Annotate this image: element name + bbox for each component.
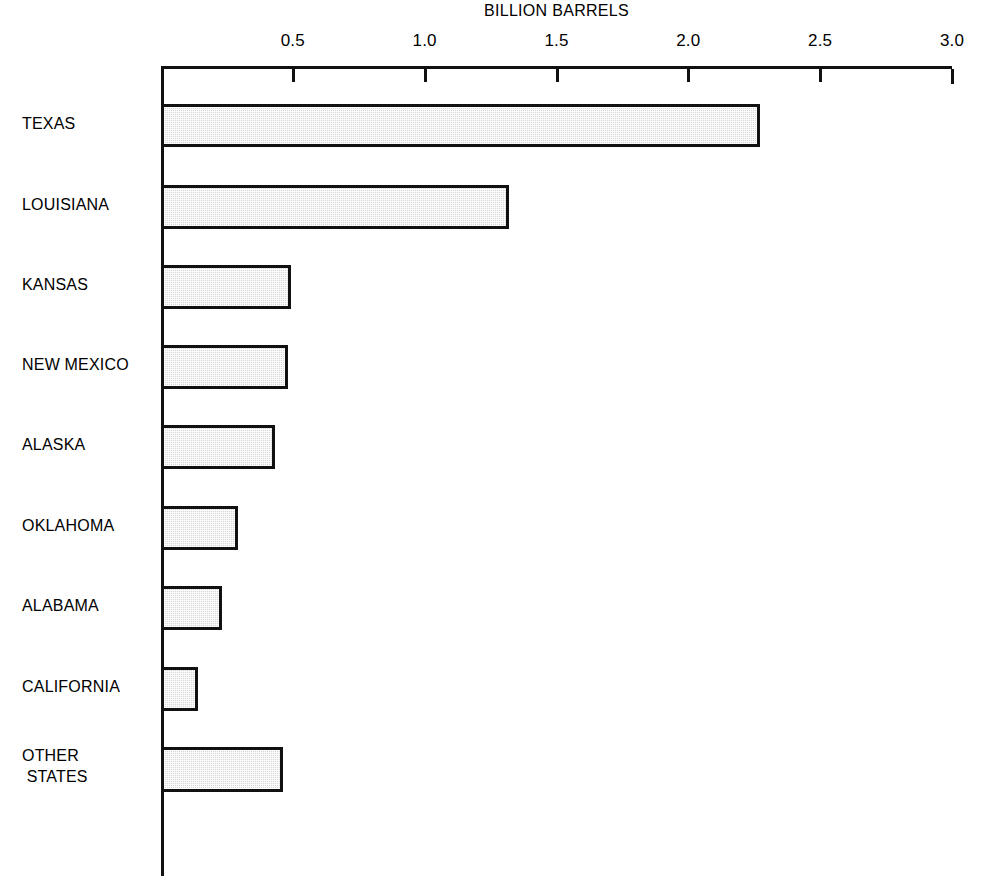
- chart-title: BILLION BARRELS: [161, 2, 952, 20]
- category-label-alabama: ALABAMA: [22, 595, 99, 616]
- bar-louisiana[interactable]: [161, 185, 509, 229]
- x-axis-tick-label-2.0: 2.0: [676, 31, 700, 51]
- x-axis-tick-3.0: [951, 69, 954, 84]
- bar-alaska[interactable]: [161, 425, 275, 469]
- bar-chart: BILLION BARRELS 0.51.01.52.02.53.0 TEXAS…: [0, 0, 987, 886]
- x-axis-tick-label-2.5: 2.5: [808, 31, 832, 51]
- x-axis-tick-2.5: [819, 69, 822, 82]
- x-axis-tick-label-1.0: 1.0: [413, 31, 437, 51]
- x-axis-tick-label-1.5: 1.5: [544, 31, 568, 51]
- bar-texas[interactable]: [161, 104, 760, 147]
- bar-new-mexico[interactable]: [161, 345, 288, 389]
- bar-alabama[interactable]: [161, 586, 222, 630]
- bar-other-states[interactable]: [161, 747, 283, 792]
- x-axis-tick-0.5: [292, 69, 295, 82]
- x-axis-line: [161, 66, 952, 69]
- x-axis-tick-label-0.5: 0.5: [281, 31, 305, 51]
- bar-kansas[interactable]: [161, 265, 291, 309]
- category-label-alaska: ALASKA: [22, 434, 85, 455]
- x-axis-tick-2.0: [687, 69, 690, 82]
- category-label-california: CALIFORNIA: [22, 676, 120, 697]
- bar-oklahoma[interactable]: [161, 506, 238, 550]
- category-label-kansas: KANSAS: [22, 274, 88, 295]
- category-label-louisiana: LOUISIANA: [22, 194, 109, 215]
- category-label-other-states: OTHER STATES: [22, 745, 88, 787]
- bar-california[interactable]: [161, 667, 198, 711]
- x-axis-tick-1.5: [556, 69, 559, 82]
- x-axis-tick-1.0: [424, 69, 427, 82]
- category-label-new-mexico: NEW MEXICO: [22, 354, 129, 375]
- category-label-texas: TEXAS: [22, 113, 75, 134]
- category-label-oklahoma: OKLAHOMA: [22, 515, 114, 536]
- x-axis-tick-label-3.0: 3.0: [940, 31, 964, 51]
